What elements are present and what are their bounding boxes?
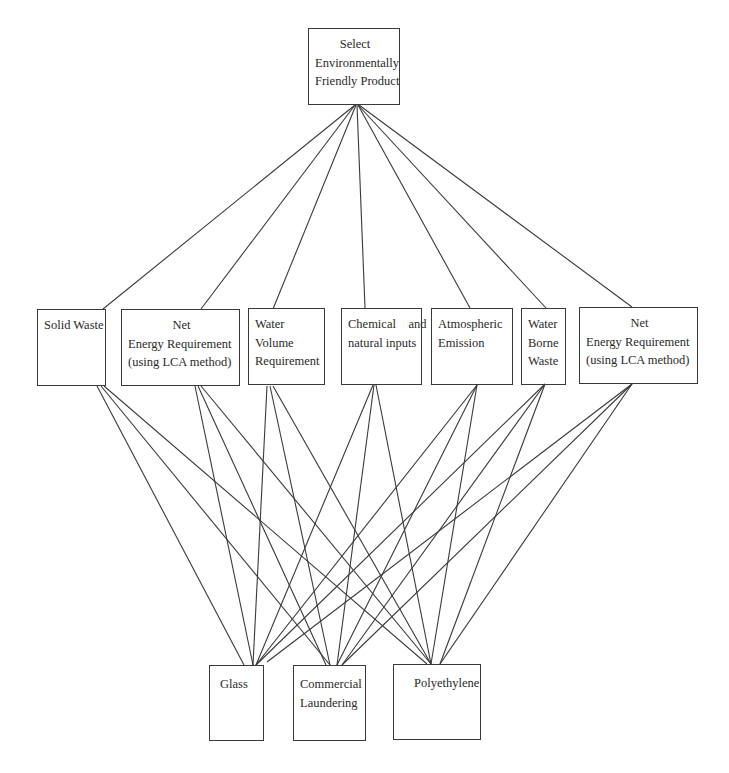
alternative-label: Laundering	[300, 694, 361, 713]
connector-line	[253, 386, 267, 665]
connector-line	[201, 386, 431, 664]
connector-line	[267, 384, 632, 662]
criterion-label: Borne	[528, 334, 561, 353]
criterion-net-energy-1: Net Energy Requirement (using LCA method…	[121, 309, 240, 386]
criterion-solid-waste: Solid Waste	[37, 309, 106, 386]
criterion-label: Water	[255, 315, 320, 334]
criterion-label: Energy Requirement	[586, 333, 693, 352]
connector-line	[195, 386, 253, 665]
criterion-label: Net	[586, 314, 693, 333]
connector-line	[103, 105, 355, 309]
connector-line	[104, 386, 427, 664]
criterion-label: Volume	[255, 334, 320, 353]
criterion-water-borne-waste: Water Borne Waste	[521, 308, 566, 385]
criterion-chemical-natural-inputs: Chemical and natural inputs	[341, 308, 422, 385]
criterion-label: (using LCA method)	[128, 353, 235, 372]
criterion-net-energy-2: Net Energy Requirement (using LCA method…	[579, 307, 698, 384]
criterion-label: Chemical and	[348, 315, 417, 334]
ahp-hierarchy-diagram: Select Environmentally Friendly Product …	[0, 0, 729, 773]
connector-line	[342, 384, 632, 665]
criterion-label: Energy Requirement	[128, 335, 235, 354]
connector-line	[358, 105, 470, 308]
connector-line	[342, 384, 545, 665]
criterion-label: Atmospheric	[438, 315, 508, 334]
connector-line	[358, 105, 546, 308]
connector-line	[273, 105, 356, 309]
connector-line	[440, 384, 545, 664]
criterion-label: (using LCA method)	[586, 351, 693, 370]
alternative-polyethylene: Polyethylene	[393, 664, 481, 740]
connector-line	[201, 105, 355, 309]
alternative-label: Commercial	[300, 675, 361, 694]
criterion-water-volume: Water Volume Requirement	[248, 308, 325, 385]
goal-label-line-3: Friendly Product	[315, 72, 395, 91]
connector-line	[376, 385, 431, 664]
criterion-label: Requirement	[255, 352, 320, 371]
connector-line	[337, 385, 477, 665]
criterion-label: natural inputs	[348, 334, 417, 353]
criterion-atmospheric-emission: Atmospheric Emission	[431, 308, 513, 385]
criterion-label: Net	[128, 316, 235, 335]
connector-line	[359, 105, 632, 307]
connector-lines	[0, 0, 729, 773]
criterion-label: Waste	[528, 352, 561, 371]
alternative-label: Polyethylene	[414, 674, 476, 693]
connector-line	[256, 385, 477, 665]
connector-line	[357, 105, 365, 308]
goal-box: Select Environmentally Friendly Product	[308, 28, 400, 105]
alternative-commercial-laundering: Commercial Laundering	[293, 665, 366, 741]
connector-line	[97, 386, 244, 665]
connector-line	[198, 386, 326, 665]
connector-line	[440, 384, 632, 664]
criterion-label: Emission	[438, 334, 508, 353]
goal-label-line-2: Environmentally	[315, 54, 395, 73]
connector-line	[270, 386, 330, 665]
alternative-glass: Glass	[209, 665, 264, 741]
goal-label-line-1: Select	[315, 35, 395, 54]
criterion-label: Water	[528, 315, 561, 334]
alternative-label: Glass	[220, 675, 259, 694]
connector-line	[431, 385, 477, 664]
criterion-label: Solid Waste	[44, 316, 101, 335]
connector-line	[101, 386, 330, 665]
